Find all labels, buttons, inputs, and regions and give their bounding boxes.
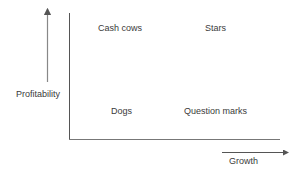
quadrant-cash-cows: Cash cows <box>98 23 142 34</box>
quadrant-question-marks: Question marks <box>184 106 247 117</box>
y-axis-label: Profitability <box>16 89 60 100</box>
quadrant-stars: Stars <box>205 23 226 34</box>
x-axis-label: Growth <box>229 156 258 167</box>
diagram-canvas <box>0 0 304 176</box>
quadrant-dogs: Dogs <box>111 106 132 117</box>
